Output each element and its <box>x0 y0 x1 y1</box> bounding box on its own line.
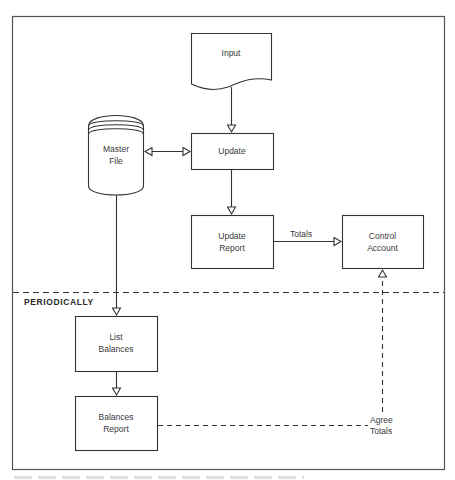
input-label: Input <box>191 47 271 59</box>
totals-edge-label: Totals <box>290 229 312 240</box>
balances-report-label-line2: Report <box>75 423 157 435</box>
list-balances-label-line1: List <box>75 331 157 343</box>
list-balances-label-line2: Balances <box>75 343 157 355</box>
figure-caption-cutoff <box>14 474 304 480</box>
agree-totals-label: Agree Totals <box>370 415 393 437</box>
periodically-section-label: PERIODICALLY <box>24 297 94 307</box>
master-file-label-line2: File <box>88 155 144 167</box>
update-report-label-line2: Report <box>191 242 273 254</box>
flowchart-diagram: Input Master File Update Update Report C… <box>0 0 455 480</box>
agree-label-line1: Agree <box>370 415 393 426</box>
master-file-label-line1: Master <box>88 143 144 155</box>
control-account-label-line2: Account <box>342 242 423 254</box>
control-account-label: Control Account <box>342 230 423 254</box>
balances-report-label: Balances Report <box>75 411 157 435</box>
agree-label-line2: Totals <box>370 426 393 437</box>
update-report-label-line1: Update <box>191 230 273 242</box>
control-account-label-line1: Control <box>342 230 423 242</box>
list-balances-label: List Balances <box>75 331 157 355</box>
master-file-label: Master File <box>88 143 144 167</box>
update-report-label: Update Report <box>191 230 273 254</box>
update-label: Update <box>191 145 273 157</box>
balances-report-label-line1: Balances <box>75 411 157 423</box>
input-document-shape <box>192 34 272 90</box>
